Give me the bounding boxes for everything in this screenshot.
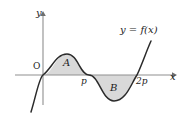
function-graph-figure: y x O A B p 2p y = f(x) xyxy=(0,0,180,117)
origin-label: O xyxy=(33,62,40,71)
region-b-label: B xyxy=(110,83,117,93)
tick-label-p: p xyxy=(81,77,87,86)
y-axis-label: y xyxy=(36,8,42,18)
region-a-label: A xyxy=(63,58,70,68)
x-axis-label: x xyxy=(170,72,176,82)
graph-canvas xyxy=(0,0,180,117)
function-label: y = f(x) xyxy=(120,25,158,35)
tick-label-two-p: 2p xyxy=(136,77,148,86)
